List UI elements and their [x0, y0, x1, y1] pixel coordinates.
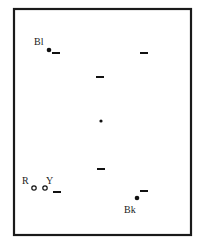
center-spot [99, 119, 102, 122]
ball-label-black: Bk [124, 204, 136, 215]
dash-lower-center [97, 168, 105, 170]
ball-label-blue: Bl [34, 36, 44, 47]
dash-bottom-right [140, 190, 148, 192]
dash-bottom-left [53, 191, 61, 193]
ball-black [135, 196, 140, 201]
dash-top-right [140, 52, 148, 54]
ball-blue [47, 48, 52, 53]
diagram-canvas: Bl R Y Bk [0, 0, 200, 243]
dash-upper-center [96, 76, 104, 78]
ball-label-red: R [22, 175, 29, 186]
dash-top-left [52, 52, 60, 54]
ball-label-yellow: Y [46, 175, 53, 186]
